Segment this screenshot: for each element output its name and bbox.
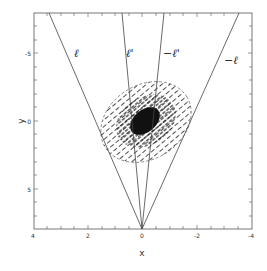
label-neg-l: −ℓ [224,54,238,67]
x-tick-label: 2 [86,232,90,239]
y-tick-label: 5 [27,186,31,193]
y-tick-label: 0 [27,118,31,125]
x-tick-label: -4 [248,232,254,239]
figure: ℓ ℓ' −ℓ' −ℓ -5 [0,0,267,271]
ellipse-regions [86,65,207,179]
x-tick-label: 4 [31,232,35,239]
y-tick-label: -5 [25,50,31,57]
x-tick-label: -2 [194,232,200,239]
x-tick-label: 0 [140,232,144,239]
label-neg-lprime: −ℓ' [163,47,180,60]
x-axis-label: x [139,248,145,258]
label-lprime: ℓ' [126,47,134,60]
label-l: ℓ [74,47,79,60]
y-axis-label: y [16,118,26,124]
